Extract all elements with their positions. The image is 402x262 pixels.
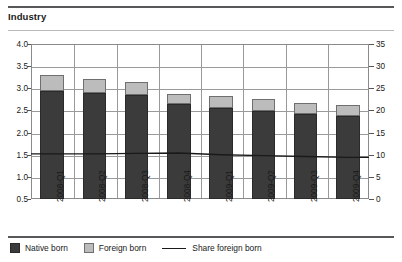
legend-swatch-foreign-icon	[84, 243, 94, 253]
chart-legend: Native bornForeign bornShare foreign bor…	[10, 243, 278, 253]
x-axis-tick-label: 2008-Q3	[141, 170, 150, 202]
x-axis-tick-label: 2008-Q2	[98, 170, 107, 202]
line-share-foreign-born	[52, 153, 348, 157]
chart-area: 0.51.01.52.02.53.03.54.005101520253035 2…	[0, 0, 402, 262]
legend-item: Foreign born	[84, 243, 147, 253]
legend-divider	[8, 236, 394, 238]
legend-item: Share foreign born	[162, 243, 261, 253]
legend-item-label: Foreign born	[99, 243, 147, 253]
legend-item-label: Native born	[25, 243, 68, 253]
x-axis-tick-label: 2009-Q4	[352, 170, 361, 202]
legend-line-icon	[162, 248, 186, 249]
legend-item-label: Share foreign born	[192, 243, 261, 253]
x-axis-tick-label: 2009-Q2	[267, 170, 276, 202]
share-foreign-born-line	[0, 0, 402, 262]
x-axis-tick-label: 2009-Q1	[225, 170, 234, 202]
x-axis-tick-label: 2009-Q3	[310, 170, 319, 202]
legend-item: Native born	[10, 243, 68, 253]
legend-swatch-native-icon	[10, 243, 20, 253]
x-axis-tick-label: 2008-Q1	[56, 170, 65, 202]
x-axis-tick-label: 2008-Q4	[183, 170, 192, 202]
